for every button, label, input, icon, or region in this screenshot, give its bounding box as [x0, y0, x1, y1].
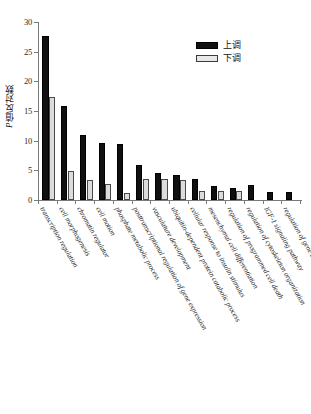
y-axis-tick-label: 5 — [12, 165, 32, 175]
plot-area — [38, 22, 300, 200]
bar-down — [143, 179, 149, 200]
bar-down — [218, 191, 224, 200]
bar-down — [199, 191, 205, 200]
bar-up — [42, 36, 48, 200]
y-axis-tick-label: 30 — [12, 17, 32, 27]
x-axis-labels: transcription regulationcell morphogenes… — [0, 200, 311, 414]
legend-label: 上调 — [223, 41, 241, 50]
legend: 上调下调 — [196, 40, 241, 66]
legend-swatch — [196, 42, 218, 49]
legend-label: 下调 — [223, 54, 241, 63]
bar-up — [286, 192, 292, 200]
bar-down — [105, 184, 111, 200]
y-axis-title-italic: P — [4, 122, 14, 128]
bar-up — [267, 192, 273, 200]
bar-group — [267, 22, 273, 200]
bar-group — [248, 22, 254, 200]
bar-up — [248, 185, 254, 200]
bar-up — [211, 186, 217, 200]
bar-down — [68, 171, 74, 200]
bar-down — [87, 180, 93, 200]
bar-up — [136, 165, 142, 200]
bar-up — [173, 175, 179, 201]
y-axis-tick-label: 10 — [12, 136, 32, 146]
bar-up — [99, 143, 105, 200]
bar-up — [155, 173, 161, 200]
y-axis-title-text: 值反对数 — [4, 84, 14, 122]
bar-up — [117, 144, 123, 200]
bar-up — [80, 135, 86, 200]
bar-group — [136, 22, 149, 200]
y-axis-tick-label: 15 — [12, 106, 32, 116]
bar-group — [61, 22, 74, 200]
bar-group — [173, 22, 186, 200]
bar-down — [236, 191, 242, 200]
y-axis-tick-label: 25 — [12, 47, 32, 57]
y-axis-tick-label: 20 — [12, 76, 32, 86]
bar-up — [192, 179, 198, 200]
bar-group — [99, 22, 112, 200]
bar-down — [161, 179, 167, 200]
bar-group — [80, 22, 93, 200]
bar-group — [117, 22, 130, 200]
bar-down — [49, 97, 55, 200]
bar-chart: P值反对数 051015202530 上调下调 transcription re… — [0, 0, 311, 414]
bar-up — [61, 106, 67, 200]
bar-group — [42, 22, 55, 200]
bar-group — [286, 22, 292, 200]
legend-item: 下调 — [196, 53, 241, 63]
bar-up — [230, 188, 236, 200]
bar-group — [155, 22, 168, 200]
legend-swatch — [196, 55, 218, 62]
legend-item: 上调 — [196, 40, 241, 50]
bar-down — [180, 180, 186, 200]
